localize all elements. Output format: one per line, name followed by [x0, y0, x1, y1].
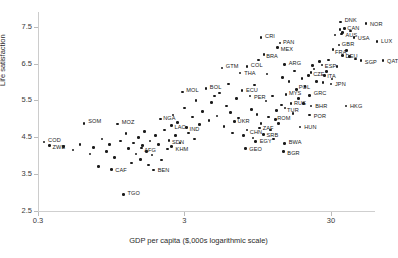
data-point: [299, 126, 302, 129]
data-point: [218, 92, 221, 95]
data-point-label: CHN: [250, 129, 262, 135]
data-point: [119, 140, 122, 143]
data-point: [265, 100, 268, 103]
data-point: [198, 123, 201, 126]
y-tick-label: 4.5: [22, 133, 32, 141]
x-tick-mark: [38, 212, 39, 216]
data-point: [132, 142, 135, 145]
data-point: [288, 80, 291, 83]
data-point: [113, 156, 116, 159]
data-point: [116, 123, 119, 126]
data-point: [318, 60, 321, 63]
data-point-label: BHR: [315, 103, 327, 109]
data-point: [246, 129, 249, 132]
data-point: [168, 139, 171, 142]
data-point: [281, 76, 284, 79]
y-tick-label: 3.5: [22, 170, 32, 178]
data-point: [308, 114, 311, 117]
data-point: [160, 159, 163, 162]
data-point-label: AFG: [144, 147, 156, 153]
data-point: [157, 143, 160, 146]
data-point: [170, 124, 173, 127]
data-point: [221, 67, 224, 70]
data-point: [241, 89, 244, 92]
x-tick-label: 30: [311, 217, 351, 225]
data-point: [323, 74, 326, 77]
x-tick-label: 3: [164, 217, 204, 225]
data-point-label: LUX: [381, 38, 392, 44]
data-point-label: BWA: [289, 139, 302, 145]
data-point-label: BOL: [210, 84, 222, 90]
data-point: [235, 97, 238, 100]
data-point: [159, 118, 162, 121]
data-point-label: BGR: [287, 150, 299, 156]
data-point: [256, 113, 259, 116]
data-point-label: GEO: [249, 146, 262, 152]
data-point: [327, 59, 330, 62]
data-point: [279, 42, 282, 45]
data-point-label: IND: [190, 126, 200, 132]
data-point-label: NOR: [370, 21, 383, 27]
data-point: [360, 59, 363, 62]
data-point-label: POL: [299, 84, 311, 90]
data-point: [174, 134, 177, 137]
data-point: [295, 88, 298, 91]
data-point-label: USA: [358, 35, 370, 41]
x-axis-line: [38, 211, 375, 212]
data-point: [244, 147, 247, 150]
data-point-label: COL: [251, 62, 263, 68]
data-point: [260, 36, 263, 39]
data-point: [233, 120, 236, 123]
data-point: [267, 116, 270, 119]
data-point-label: MEX: [281, 46, 293, 52]
data-point: [315, 80, 318, 83]
data-point: [283, 63, 286, 66]
data-point: [254, 140, 257, 143]
data-point: [225, 105, 228, 108]
data-point-label: KHM: [176, 146, 189, 152]
data-point-label: BEN: [158, 167, 170, 173]
data-point: [242, 134, 245, 137]
data-point: [307, 74, 310, 77]
data-point: [147, 164, 150, 167]
data-point: [213, 95, 216, 98]
data-point: [229, 111, 232, 114]
data-point: [321, 64, 324, 67]
data-point: [276, 46, 279, 49]
data-point-label: SOM: [88, 118, 101, 124]
x-axis-title: GDP per capita ($,000s logarithmic scale…: [0, 236, 397, 245]
data-point: [252, 137, 255, 140]
data-point: [253, 84, 256, 87]
data-point-label: NGA: [163, 115, 175, 121]
data-point: [285, 93, 288, 96]
data-point: [311, 64, 314, 67]
data-point: [125, 132, 128, 135]
data-point-label: JPN: [335, 81, 346, 87]
y-axis-title: Life satisfaction: [0, 34, 7, 86]
data-point: [277, 122, 280, 125]
data-point-label: CAN: [347, 25, 359, 31]
data-point-label: COD: [48, 137, 61, 143]
data-point: [313, 68, 316, 71]
data-point-label: ZAF: [263, 125, 274, 131]
data-point-label: ZWE: [53, 144, 66, 150]
data-point-label: CRI: [265, 33, 275, 39]
data-point: [263, 53, 266, 56]
x-tick-label: 0.3: [18, 217, 58, 225]
data-point: [376, 40, 379, 43]
data-point: [191, 116, 194, 119]
data-point: [72, 149, 75, 152]
data-point: [262, 133, 265, 136]
data-point: [105, 150, 108, 153]
data-point: [166, 148, 169, 151]
data-point: [227, 83, 230, 86]
data-point-label: QAT: [387, 58, 398, 64]
data-point: [208, 119, 211, 122]
data-point-label: PAN: [283, 39, 294, 45]
y-tick-label: 7.5: [22, 23, 32, 31]
data-point-label: RUS: [294, 100, 306, 106]
data-point: [274, 118, 277, 121]
data-point-label: PER: [254, 94, 266, 100]
data-point: [334, 34, 337, 37]
